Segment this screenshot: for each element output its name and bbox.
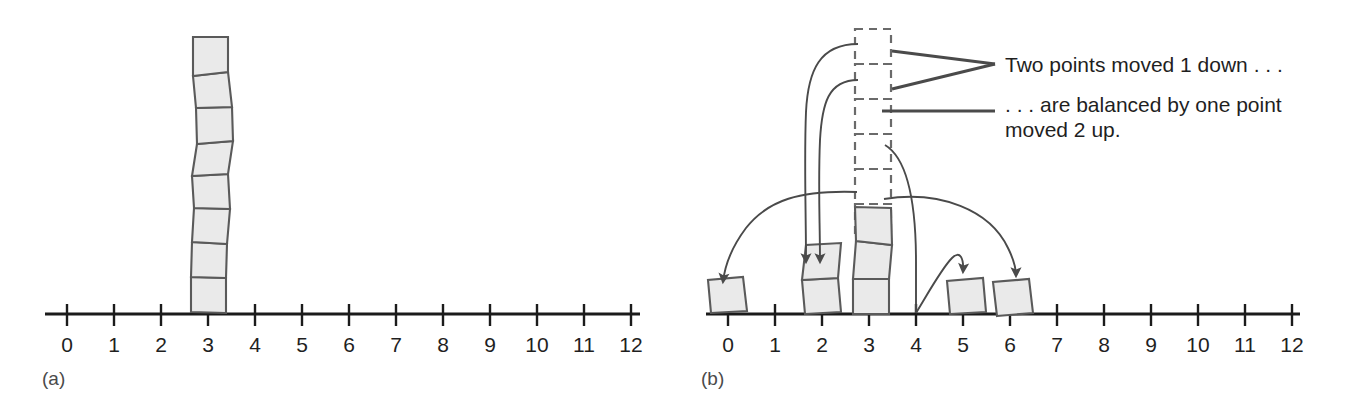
axis-tick-label: 4 xyxy=(249,333,261,356)
data-block xyxy=(853,279,889,314)
ghost-block xyxy=(855,99,891,134)
data-block xyxy=(192,174,230,209)
axis-tick-label: 2 xyxy=(155,333,167,356)
panel-b-stack-6 xyxy=(993,279,1033,316)
panel-a-stack-3 xyxy=(191,37,233,313)
data-block xyxy=(802,243,841,280)
data-block xyxy=(196,107,233,144)
axis-tick-label: 8 xyxy=(1098,333,1110,356)
data-block xyxy=(708,277,747,313)
axis-tick-label: 6 xyxy=(343,333,355,356)
data-block xyxy=(191,277,226,313)
callout-two-down: Two points moved 1 down . . . xyxy=(1005,53,1283,76)
panel-label-a: (a) xyxy=(42,368,65,389)
axis-tick-label: 12 xyxy=(619,333,642,356)
axis-tick-label: 11 xyxy=(573,333,595,356)
ghost-block xyxy=(855,29,891,64)
axis-tick-label: 7 xyxy=(390,333,402,356)
panel-b-stack-0 xyxy=(708,277,747,313)
axis-tick-label: 1 xyxy=(108,333,120,356)
leader-two-down-upper xyxy=(892,51,995,64)
axis-tick-label: 7 xyxy=(1051,333,1063,356)
motion-arrow-to-6 xyxy=(884,197,1016,276)
axis-tick-label: 1 xyxy=(769,333,781,356)
data-block xyxy=(193,37,228,76)
panel-b-callout-leaders xyxy=(882,51,995,111)
ghost-block xyxy=(855,64,891,99)
axis-tick-label: 6 xyxy=(1004,333,1016,356)
axis-tick-label: 4 xyxy=(910,333,922,356)
axis-tick-label: 9 xyxy=(1145,333,1157,356)
axis-tick-label: 0 xyxy=(722,333,734,356)
panel-b-stack-3 xyxy=(853,207,892,314)
axis-tick-label: 3 xyxy=(202,333,214,356)
data-block xyxy=(191,242,227,278)
data-block xyxy=(993,279,1033,316)
axis-tick-label: 10 xyxy=(525,333,548,356)
leader-two-down-lower xyxy=(892,64,995,89)
data-block xyxy=(193,72,232,108)
data-block xyxy=(947,278,986,314)
data-block xyxy=(802,278,841,314)
axis-tick-label: 10 xyxy=(1186,333,1209,356)
panel-a: 0 1 2 3 4 5 6 7 8 9 10 11 12 xyxy=(42,37,643,389)
data-block xyxy=(192,208,230,244)
data-block xyxy=(855,207,892,245)
axis-tick-label: 5 xyxy=(296,333,308,356)
axis-tick-label: 12 xyxy=(1280,333,1303,356)
axis-tick-label: 3 xyxy=(863,333,875,356)
data-block xyxy=(853,241,892,279)
axis-tick-label: 0 xyxy=(61,333,73,356)
panel-b: 0 1 2 3 4 5 6 7 8 9 10 11 12 xyxy=(701,29,1304,389)
panel-b-stack-2 xyxy=(802,243,841,314)
axis-tick-label: 5 xyxy=(957,333,969,356)
panel-b-stack-5 xyxy=(947,278,986,314)
panel-a-tick-labels: 0 1 2 3 4 5 6 7 8 9 10 11 12 xyxy=(61,333,643,356)
panel-label-b: (b) xyxy=(701,368,724,389)
axis-tick-label: 8 xyxy=(437,333,449,356)
axis-tick-label: 11 xyxy=(1234,333,1256,356)
motion-arrow-to-2b xyxy=(819,80,858,262)
motion-arrow-to-2a xyxy=(805,44,858,262)
callout-balanced-line2: moved 2 up. xyxy=(1005,118,1121,141)
ghost-block xyxy=(855,134,891,169)
figure-container: 0 1 2 3 4 5 6 7 8 9 10 11 12 xyxy=(0,0,1357,408)
panel-a-axis xyxy=(45,304,640,326)
data-block xyxy=(192,141,233,176)
axis-tick-label: 9 xyxy=(484,333,496,356)
figure-svg: 0 1 2 3 4 5 6 7 8 9 10 11 12 xyxy=(0,0,1357,408)
callout-balanced-line1: . . . are balanced by one point xyxy=(1005,93,1282,116)
panel-b-callouts: Two points moved 1 down . . . . . . are … xyxy=(1005,53,1283,141)
panel-b-tick-labels: 0 1 2 3 4 5 6 7 8 9 10 11 12 xyxy=(722,333,1304,356)
axis-tick-label: 2 xyxy=(816,333,828,356)
